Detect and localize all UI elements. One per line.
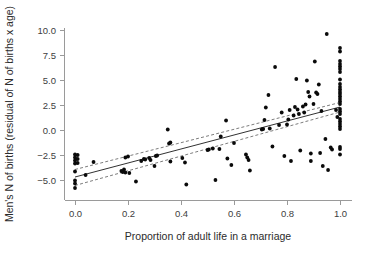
data-point (338, 147, 342, 151)
data-point (273, 65, 277, 69)
data-point (267, 93, 271, 97)
data-point (76, 161, 80, 165)
data-point (302, 111, 306, 115)
data-point (180, 156, 184, 160)
data-point (248, 169, 252, 173)
data-point (304, 103, 308, 107)
axes (60, 28, 352, 205)
x-tick-label: 1.0 (334, 208, 347, 219)
data-point (297, 112, 301, 116)
data-point (309, 152, 313, 156)
data-point (73, 170, 77, 174)
y-tick-label: 5.0 (43, 75, 56, 86)
data-point (263, 118, 267, 122)
data-point (286, 118, 290, 122)
data-point (153, 164, 157, 168)
data-point (321, 164, 325, 168)
x-tick-label: 0.2 (122, 208, 135, 219)
regression-fit-line (75, 107, 340, 177)
data-point (76, 153, 80, 157)
data-point (92, 160, 96, 164)
data-point (317, 83, 321, 87)
x-tick-label: 0.0 (69, 208, 82, 219)
data-point (207, 148, 211, 152)
y-axis-title: Men's N of births (residual of N of birt… (3, 6, 15, 222)
data-point (338, 46, 342, 50)
data-point (247, 158, 251, 162)
data-point (211, 147, 215, 151)
data-point (318, 151, 322, 155)
data-point (219, 135, 223, 139)
data-point (298, 149, 302, 153)
data-point (334, 108, 338, 112)
data-point (292, 114, 296, 118)
data-point (308, 95, 312, 99)
data-point (316, 92, 320, 96)
data-point (325, 32, 329, 36)
data-point (264, 106, 268, 110)
data-point (338, 153, 342, 157)
data-point (76, 157, 80, 161)
data-point (183, 161, 187, 165)
data-point (271, 145, 275, 149)
x-axis-title: Proportion of adult life in a marriage (125, 230, 291, 242)
data-point (134, 180, 138, 184)
data-point (84, 173, 88, 177)
data-point (218, 147, 222, 151)
data-point (338, 78, 342, 82)
plot-canvas: −5.0−2.50.02.55.07.510.0 0.00.20.40.60.8… (0, 0, 366, 264)
data-point (229, 163, 233, 167)
regression-line (75, 107, 340, 177)
y-tick-label: 10.0 (38, 25, 57, 36)
data-point (312, 102, 316, 106)
data-point (166, 128, 170, 132)
data-point (268, 127, 272, 131)
data-point (326, 168, 330, 172)
scatter-plot-figure: −5.0−2.50.02.55.07.510.0 0.00.20.40.60.8… (0, 0, 366, 264)
data-point (155, 154, 159, 158)
data-point (338, 70, 342, 74)
data-point (338, 112, 342, 116)
x-tick-label: 0.4 (175, 208, 188, 219)
x-axis-ticks (76, 201, 341, 206)
data-point (324, 137, 328, 141)
data-point (320, 109, 324, 113)
data-point (73, 186, 77, 190)
data-point (73, 182, 77, 186)
data-point (277, 123, 281, 127)
ci-upper-line (75, 103, 340, 170)
data-point (330, 148, 334, 152)
data-point (338, 50, 342, 54)
data-point (285, 123, 289, 127)
data-point (184, 183, 188, 187)
data-point (306, 90, 310, 94)
data-point (338, 127, 342, 131)
data-point (305, 79, 309, 83)
data-point (296, 108, 300, 112)
data-point (224, 119, 228, 123)
y-tick-label: 7.5 (43, 50, 56, 61)
data-point (313, 60, 317, 64)
data-point (309, 159, 313, 163)
data-point (126, 155, 130, 159)
data-point (169, 141, 173, 145)
data-point (232, 141, 236, 145)
data-point (338, 102, 342, 106)
data-points (73, 32, 342, 190)
data-point (294, 77, 298, 81)
y-tick-label: 0.0 (43, 125, 56, 136)
data-point (280, 111, 284, 115)
data-point (123, 171, 127, 175)
data-point (261, 127, 265, 131)
data-point (169, 160, 173, 164)
y-tick-label: −2.5 (37, 150, 56, 161)
data-point (143, 158, 147, 162)
data-point (127, 171, 131, 175)
y-axis-tick-labels: −5.0−2.50.02.55.07.510.0 (37, 25, 56, 186)
x-tick-label: 0.6 (228, 208, 241, 219)
x-axis-tick-labels: 0.00.20.40.60.81.0 (69, 208, 347, 219)
data-point (225, 157, 229, 161)
y-tick-label: −5.0 (37, 175, 56, 186)
y-tick-label: 2.5 (43, 100, 56, 111)
x-tick-label: 0.8 (281, 208, 294, 219)
